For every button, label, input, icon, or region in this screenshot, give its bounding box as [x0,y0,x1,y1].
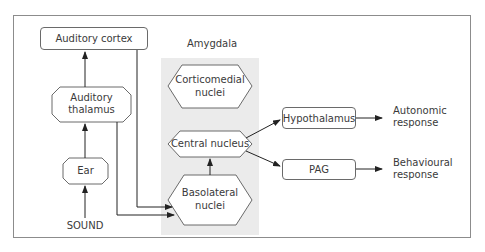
corticomedial-label-1: Corticomedial [168,74,252,86]
sound-label: SOUND [55,220,115,232]
central-nucleus-label: Central nucleus [168,138,252,150]
behavioural-label-1: Behavioural [393,157,453,169]
auditory-cortex-label: Auditory cortex [55,33,132,44]
auditory-cortex-node: Auditory cortex [40,27,148,50]
behavioural-label-2: response [393,169,438,181]
hypothalamus-node: Hypothalamus [282,107,356,129]
auditory-thalamus-label-2: thalamus [52,104,131,116]
pag-label: PAG [309,164,329,175]
ear-label: Ear [63,165,108,177]
amygdala-title: Amygdala [182,38,242,50]
corticomedial-label-2: nuclei [168,87,252,99]
basolateral-label-2: nuclei [168,200,252,212]
autonomic-label-1: Autonomic [393,105,447,117]
basolateral-label-1: Basolateral [168,187,252,199]
pag-node: PAG [282,159,356,180]
auditory-thalamus-label-1: Auditory [52,92,131,104]
autonomic-label-2: response [393,117,438,129]
hypothalamus-label: Hypothalamus [283,113,356,124]
